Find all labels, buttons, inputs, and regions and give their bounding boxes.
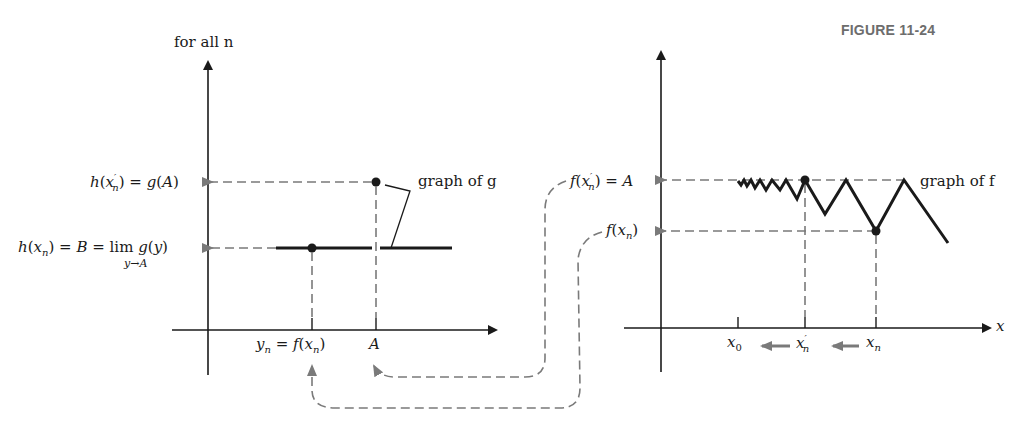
label-f-xn: f(xn) bbox=[606, 221, 638, 241]
figure-11-24: FIGURE 11-24 for all n h(x′n) = g(A) h(x… bbox=[0, 0, 1025, 427]
diagram-canvas bbox=[0, 0, 1025, 427]
label-A-axis: A bbox=[369, 335, 380, 353]
label-h-x-eq-B-lim: h(xn) = B = lim g(y) bbox=[18, 238, 168, 258]
right-graph bbox=[624, 52, 990, 372]
connector-yn bbox=[312, 232, 602, 408]
label-xprime-n: x′n bbox=[796, 333, 809, 354]
figure-label: FIGURE 11-24 bbox=[841, 22, 935, 38]
label-x-axis: x bbox=[996, 317, 1004, 335]
connector-A bbox=[374, 181, 566, 377]
graph-g-pointer bbox=[385, 185, 410, 248]
left-top-label: for all n bbox=[174, 33, 234, 51]
label-xn: xn bbox=[866, 333, 881, 353]
graph-f-annotation: graph of f bbox=[920, 172, 995, 190]
left-graph bbox=[172, 62, 496, 375]
graph-f-curve bbox=[738, 180, 948, 243]
connectors bbox=[312, 181, 602, 408]
label-yn-eq-fxn: yn = f(xn) bbox=[256, 335, 325, 355]
label-f-xprime-eq-A: f(x′n) = A bbox=[570, 171, 633, 192]
graph-g-annotation: graph of g bbox=[418, 172, 497, 190]
graph-f-point-xprime bbox=[801, 176, 810, 185]
label-x0: x0 bbox=[727, 333, 742, 353]
graph-f-point-xn bbox=[872, 227, 881, 236]
label-h-xprime-eq-gA: h(x′n) = g(A) bbox=[90, 172, 179, 193]
lim-subscript: y→A bbox=[124, 257, 147, 270]
graph-g-point-A bbox=[372, 178, 381, 187]
graph-g-point-yn bbox=[308, 244, 317, 253]
for-all-n-text: for all n bbox=[174, 33, 234, 51]
